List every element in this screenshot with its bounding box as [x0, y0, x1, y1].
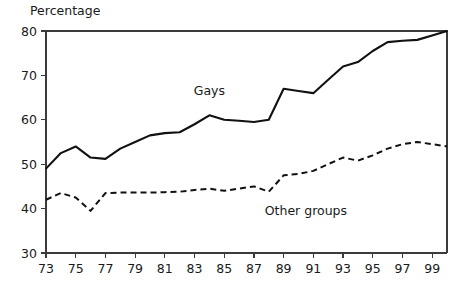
- x-tick-label: 83: [187, 261, 203, 276]
- x-tick-label: 77: [97, 261, 113, 276]
- line-chart: Percentage 304050607080 7375777981838587…: [0, 0, 461, 288]
- x-tick-label: 81: [157, 261, 173, 276]
- y-tick-label: 40: [21, 201, 37, 216]
- y-tick-label: 30: [21, 246, 37, 261]
- y-tick-label: 80: [21, 24, 37, 39]
- x-axis-ticks: 7375777981838587899193959799: [38, 253, 440, 276]
- series-line-other-groups: [46, 142, 447, 211]
- series-label-other-groups: Other groups: [265, 203, 347, 218]
- x-tick-label: 93: [335, 261, 351, 276]
- x-tick-label: 73: [38, 261, 54, 276]
- y-tick-label: 50: [21, 157, 37, 172]
- series-annotations: GaysOther groups: [194, 83, 347, 218]
- y-axis-ticks: 304050607080: [21, 24, 46, 261]
- x-tick-label: 89: [276, 261, 292, 276]
- x-tick-label: 95: [365, 261, 381, 276]
- x-tick-label: 75: [68, 261, 84, 276]
- x-tick-label: 91: [305, 261, 321, 276]
- chart-title: Percentage: [30, 3, 101, 18]
- chart-axes: [46, 31, 447, 253]
- x-tick-label: 79: [127, 261, 143, 276]
- y-tick-label: 60: [21, 112, 37, 127]
- x-tick-label: 99: [424, 261, 440, 276]
- x-tick-label: 85: [216, 261, 232, 276]
- data-series: [46, 31, 447, 211]
- chart-container: Percentage 304050607080 7375777981838587…: [0, 0, 461, 288]
- x-tick-label: 87: [246, 261, 262, 276]
- series-label-gays: Gays: [194, 83, 225, 98]
- chart-title-group: Percentage: [30, 3, 101, 18]
- y-tick-label: 70: [21, 68, 37, 83]
- x-tick-label: 97: [394, 261, 410, 276]
